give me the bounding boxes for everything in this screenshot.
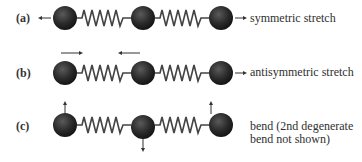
atom-left (53, 113, 77, 137)
mode-row-antisymmetric-stretch: (b) antisymmetric stretch (0, 46, 362, 100)
spring-right (155, 10, 209, 26)
mode-name-symmetric-stretch: symmetric stretch (250, 12, 336, 25)
atom-left (53, 61, 77, 85)
mode-name-bend-line2: bend not shown) (250, 133, 330, 146)
atom-right (209, 6, 233, 30)
arrow-left-icon (118, 51, 140, 55)
spring-right (155, 117, 209, 133)
atom-center (131, 115, 155, 139)
arrow-right-icon (235, 71, 247, 75)
spring-left (77, 117, 131, 133)
spring-right (155, 65, 209, 81)
atom-right (209, 61, 233, 85)
atom-right (209, 113, 233, 137)
atom-left (53, 6, 77, 30)
antisymmetric-stretch-molecule (0, 46, 250, 96)
arrow-up-icon (209, 101, 213, 114)
arrow-right-icon (235, 16, 247, 20)
bend-molecule (0, 100, 250, 162)
symmetric-stretch-molecule (0, 0, 250, 40)
spring-left (77, 10, 131, 26)
arrow-down-icon (141, 139, 145, 152)
atom-center (131, 61, 155, 85)
arrow-left-icon (38, 16, 51, 20)
arrow-right-icon (61, 51, 83, 55)
spring-left (77, 65, 131, 81)
atom-center (131, 6, 155, 30)
arrow-up-icon (63, 101, 67, 114)
mode-row-bend: (c) bend (2nd degenerate bend not shown) (0, 100, 362, 162)
mode-name-antisymmetric-stretch: antisymmetric stretch (250, 66, 354, 79)
